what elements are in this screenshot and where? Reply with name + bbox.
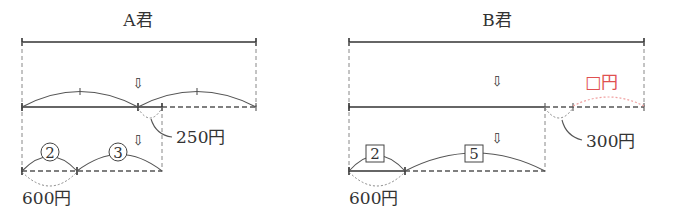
diagram-a-title: A君: [122, 10, 152, 30]
down-arrow-icon: ⇩: [132, 75, 144, 91]
diagram-b-base-label: 600円: [349, 188, 398, 208]
svg-text:2: 2: [370, 145, 380, 163]
down-arrow-icon: ⇩: [491, 73, 503, 89]
ratio-circle-3: 3: [109, 143, 127, 162]
diagram-a-total-line: [22, 38, 256, 46]
diagram-b-remainder-label: 300円: [586, 131, 635, 151]
diagram-b: B君 ⇩ □円 300円 ⇩: [349, 10, 644, 208]
ratio-box-2: 2: [366, 145, 384, 163]
diagram-a-bottom-line: [22, 155, 162, 187]
diagram-a-remainder-label: 250円: [176, 127, 225, 147]
down-arrow-icon: ⇩: [132, 132, 144, 148]
diagram-a: A君 ⇩ 250円: [22, 10, 256, 208]
diagram-b-unknown-label: □円: [585, 72, 618, 92]
diagram-b-title: B君: [482, 10, 512, 30]
ratio-circle-2: 2: [41, 143, 59, 162]
down-arrow-icon: ⇩: [491, 130, 503, 146]
svg-text:2: 2: [45, 144, 55, 162]
diagram-a-base-label: 600円: [22, 188, 71, 208]
svg-text:3: 3: [113, 144, 123, 162]
diagram-b-total-line: [349, 38, 644, 46]
svg-text:5: 5: [469, 145, 479, 163]
ratio-box-5: 5: [465, 145, 483, 163]
line-segment-diagrams: A君 ⇩ 250円: [0, 0, 674, 220]
